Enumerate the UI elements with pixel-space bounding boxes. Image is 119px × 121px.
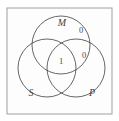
- set-label-s: S: [29, 87, 34, 98]
- venn-diagram-canvas: M S P 0 0 1: [0, 0, 119, 121]
- region-label-zero-right: 0: [82, 50, 86, 60]
- region-label-one-center: 1: [59, 56, 63, 66]
- region-label-zero-upper: 0: [79, 25, 83, 35]
- set-label-p: P: [88, 87, 95, 98]
- venn-diagram-figure: M S P 0 0 1: [0, 0, 119, 121]
- set-label-m: M: [57, 17, 67, 28]
